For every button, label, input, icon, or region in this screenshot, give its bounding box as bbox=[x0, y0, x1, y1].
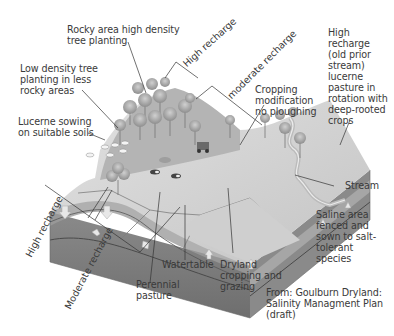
label-rocky-area: Rocky area high density tree planting bbox=[67, 24, 180, 46]
label-low-density: Low density tree planting in less rocky … bbox=[20, 63, 98, 96]
label-source-citation: From: Goulburn Dryland: Salinity Managme… bbox=[266, 287, 383, 320]
label-cropping-modification: Cropping modification no ploughing bbox=[255, 84, 317, 117]
label-stream: Stream bbox=[345, 180, 379, 191]
label-perennial-pasture: Perennial pasture bbox=[136, 279, 179, 301]
label-saline-area: Saline area fenced and sown to salt- tol… bbox=[316, 209, 376, 264]
recharge-diagram: Rocky area high density tree planting Lo… bbox=[0, 0, 394, 336]
label-high-recharge-stream: High recharge (old prior stream) lucerne… bbox=[328, 27, 388, 126]
label-lucerne-sowing: Lucerne sowing on suitable soils bbox=[18, 116, 94, 138]
label-watertable: Watertable bbox=[162, 259, 214, 270]
